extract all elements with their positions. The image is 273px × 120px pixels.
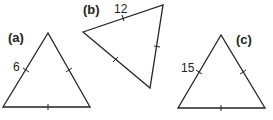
tick-a-right (66, 68, 72, 72)
side-label-c: 15 (181, 62, 194, 74)
tick-b-right (154, 46, 160, 47)
label-a: (a) (8, 31, 24, 44)
label-b: (b) (83, 3, 100, 16)
side-label-b: 12 (114, 3, 127, 15)
side-label-a: 6 (13, 61, 20, 73)
label-c: (c) (236, 33, 252, 46)
triangles-diagram (0, 0, 273, 120)
